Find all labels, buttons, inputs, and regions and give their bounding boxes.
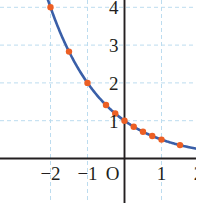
data-point [66,48,72,54]
curve-group [46,0,196,149]
data-point [103,102,109,108]
data-point [131,124,137,130]
exponential-curve [46,0,196,149]
origin-label: O [99,164,127,183]
x-axis-tick-label: −2 [37,164,65,183]
y-axis-tick-label: 4 [97,0,119,17]
y-axis-tick-label: 3 [97,36,119,55]
exponential-decay-graph: 1234−2−1O12 [0,0,196,203]
data-point [121,118,127,124]
data-point [84,80,90,86]
y-axis-tick-label: 1 [97,112,119,131]
data-point [149,133,155,139]
data-point [140,129,146,135]
data-point [158,136,164,142]
y-axis-tick-label: 2 [97,74,119,93]
x-axis-tick-label: 1 [148,164,176,183]
data-point [47,4,53,10]
data-point [177,142,183,148]
x-axis-tick-label: 2 [185,164,197,183]
x-axis-tick-label: −1 [74,164,102,183]
